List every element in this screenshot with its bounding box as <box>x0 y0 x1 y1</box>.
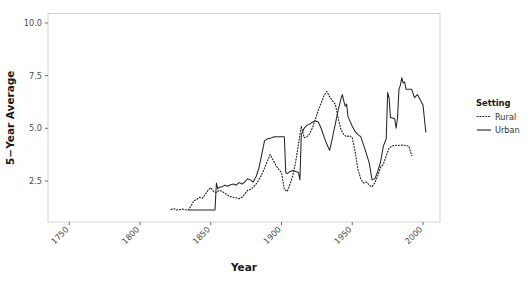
x-tick-label: 1900 <box>261 224 283 246</box>
x-axis-title: Year <box>230 261 258 273</box>
x-tick-label: 1800 <box>120 224 142 246</box>
y-axis-title: 5−Year Average <box>4 71 16 165</box>
y-axis: 2.55.07.510.0 <box>24 18 48 186</box>
x-tick-label: 2000 <box>403 224 425 246</box>
legend: Setting RuralUrban <box>476 98 520 135</box>
x-tick-label: 1750 <box>49 224 71 246</box>
y-tick-label: 5.0 <box>29 123 42 133</box>
x-tick-label: 1850 <box>190 224 212 246</box>
legend-label-rural[interactable]: Rural <box>495 112 516 122</box>
chart-container: 2.55.07.510.0 175018001850190019502000 5… <box>0 0 528 283</box>
y-tick-label: 7.5 <box>29 71 42 81</box>
plot-panel-background <box>48 14 440 223</box>
y-tick-label: 2.5 <box>29 176 42 186</box>
legend-title: Setting <box>476 98 511 108</box>
x-axis: 175018001850190019502000 <box>49 222 425 246</box>
y-tick-label: 10.0 <box>24 18 42 28</box>
legend-label-urban[interactable]: Urban <box>495 125 520 135</box>
line-chart: 2.55.07.510.0 175018001850190019502000 5… <box>0 0 528 283</box>
x-tick-label: 1950 <box>332 224 354 246</box>
